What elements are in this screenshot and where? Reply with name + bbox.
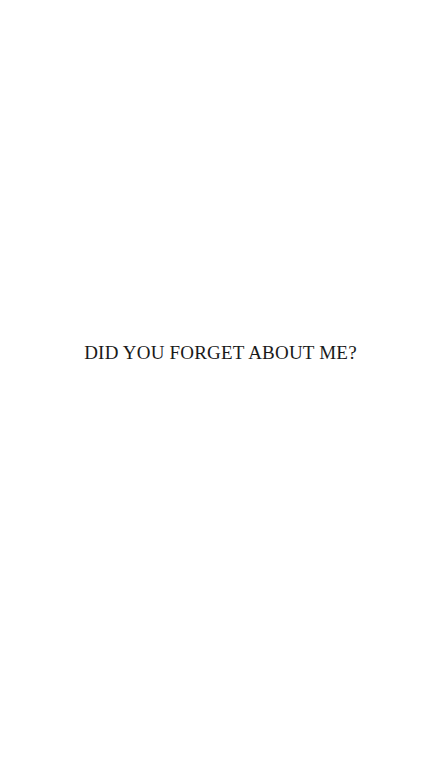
page: DID YOU FORGET ABOUT ME? — [0, 0, 441, 767]
page-caption: DID YOU FORGET ABOUT ME? — [0, 342, 441, 364]
